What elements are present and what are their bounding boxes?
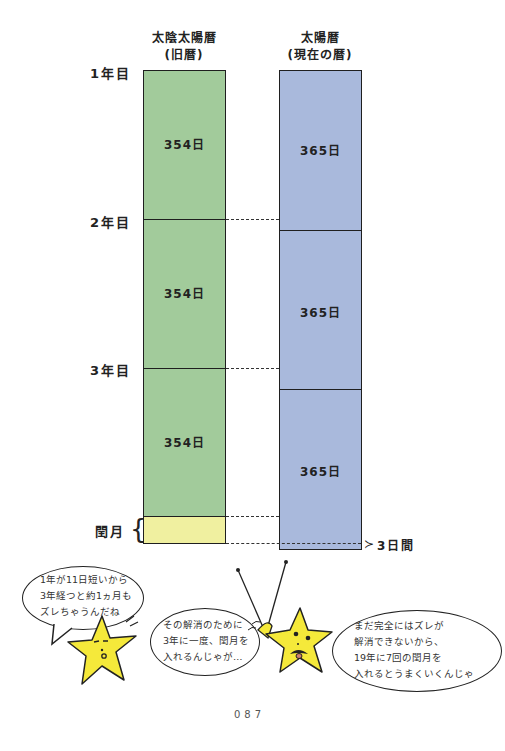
connector-leap-bottom — [226, 543, 361, 544]
leap-month-brace: { — [130, 513, 147, 545]
solar-year-1: 365日 — [280, 71, 361, 230]
solar-column-title: 太陽暦 (現在の暦) — [259, 30, 381, 64]
lunisolar-year-2-days: 354日 — [144, 284, 225, 301]
star-character-1-icon — [62, 612, 142, 692]
solar-title-line1: 太陽暦 — [259, 30, 381, 47]
lunisolar-year-3: 354日 — [144, 369, 225, 517]
solar-year-1-days: 365日 — [280, 141, 361, 158]
star-character-2-icon — [228, 560, 338, 690]
bubble-3-text: まだ完全にはズレが 解消できないから、 19年に7回の閏月を 入れるとうまくいく… — [354, 618, 474, 682]
lunisolar-bar: 354日 354日 354日 — [143, 70, 226, 520]
difference-label: 3日間 — [377, 536, 415, 553]
lunisolar-year-1: 354日 — [144, 71, 225, 220]
lunisolar-year-3-days: 354日 — [144, 433, 225, 450]
solar-year-2: 365日 — [280, 231, 361, 390]
lunisolar-column-title: 太陰太陽暦 (旧暦) — [123, 30, 245, 64]
lunisolar-year-2: 354日 — [144, 220, 225, 369]
lunisolar-title-line2: (旧暦) — [123, 47, 245, 64]
connector-year-3 — [226, 368, 279, 369]
connector-year-2 — [226, 219, 279, 220]
lunisolar-title-line1: 太陰太陽暦 — [123, 30, 245, 47]
solar-year-3-days: 365日 — [280, 462, 361, 479]
solar-title-line2: (現在の暦) — [259, 47, 381, 64]
lunisolar-year-1-days: 354日 — [144, 135, 225, 152]
year-label-2: 2年目 — [90, 212, 131, 231]
solar-bar: 365日 365日 365日 — [279, 70, 362, 550]
solar-year-2-days: 365日 — [280, 303, 361, 320]
year-label-1: 1年目 — [90, 63, 131, 82]
difference-connector-icon: ≻ — [364, 537, 374, 551]
year-label-3: 3年目 — [90, 360, 131, 379]
solar-year-3: 365日 — [280, 390, 361, 548]
leap-month-label: 閏月 — [95, 521, 125, 540]
connector-leap-top — [226, 516, 279, 517]
leap-month-segment — [143, 516, 226, 544]
page-number: 087 — [234, 709, 265, 720]
